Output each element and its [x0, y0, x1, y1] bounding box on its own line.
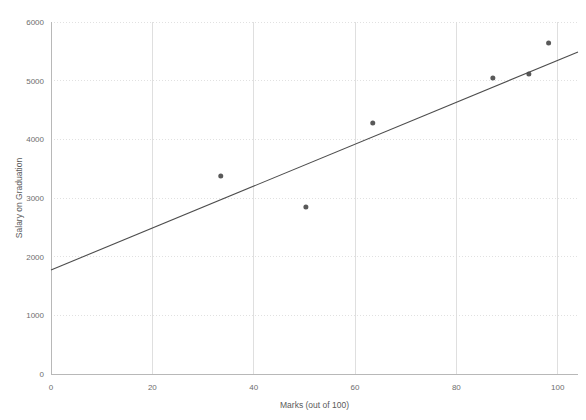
x-tick-label: 0	[49, 383, 54, 392]
trendline	[51, 52, 578, 270]
x-tick-label: 40	[249, 383, 258, 392]
x-tick-label: 60	[351, 383, 360, 392]
data-point-group	[218, 41, 551, 210]
y-tick-label: 5000	[26, 77, 44, 86]
data-point	[546, 41, 551, 46]
x-axis-title: Marks (out of 100)	[280, 400, 349, 410]
y-tick-label: 6000	[26, 18, 44, 27]
x-tick-label: 100	[551, 383, 565, 392]
x-tick-label: 80	[452, 383, 461, 392]
scatter-chart: 0100020003000400050006000020406080100Mar…	[0, 0, 586, 420]
y-tick-label: 1000	[26, 311, 44, 320]
y-axis-title: Salary on Graduation	[14, 158, 24, 239]
chart-canvas: 0100020003000400050006000020406080100Mar…	[0, 0, 586, 420]
series-group	[51, 41, 578, 270]
gridlines-group	[51, 22, 578, 374]
y-tick-labels: 0100020003000400050006000	[26, 18, 44, 379]
data-point	[303, 204, 308, 209]
data-point	[490, 76, 495, 81]
y-tick-label: 0	[40, 370, 45, 379]
y-tick-label: 4000	[26, 135, 44, 144]
data-point	[370, 120, 375, 125]
data-point	[218, 174, 223, 179]
x-tick-label: 20	[148, 383, 157, 392]
y-tick-label: 3000	[26, 194, 44, 203]
x-tick-labels: 020406080100	[49, 383, 565, 392]
y-tick-label: 2000	[26, 253, 44, 262]
